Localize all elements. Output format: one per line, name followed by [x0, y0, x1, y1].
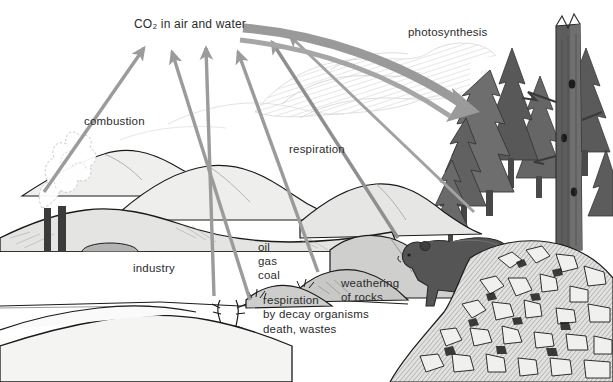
label-death-wastes: death, wastes — [263, 323, 337, 337]
label-weathering: weathering of rocks — [341, 277, 399, 304]
co2-text: CO₂ in air and water — [134, 17, 246, 31]
carbon-cycle-diagram: CO₂ in air and water photosynthesis comb… — [0, 0, 613, 382]
label-fossil-fuels: oil gas coal — [258, 240, 280, 282]
label-co2-pool: CO₂ in air and water — [134, 18, 246, 32]
label-industry: industry — [133, 262, 175, 276]
label-combustion: combustion — [84, 115, 145, 129]
label-photosynthesis: photosynthesis — [408, 26, 488, 40]
label-respiration: respiration — [289, 143, 345, 157]
